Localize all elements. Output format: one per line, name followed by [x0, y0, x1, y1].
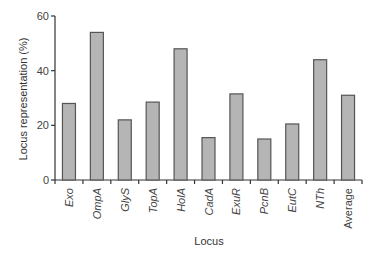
- y-axis: 0204060: [37, 10, 55, 186]
- x-tick-label: EutC: [286, 188, 298, 213]
- bar-eutc: [286, 124, 299, 180]
- bar-hola: [174, 49, 187, 180]
- bar-pcnb: [258, 139, 271, 180]
- bar-exo: [62, 103, 75, 180]
- bar-topa: [146, 102, 159, 180]
- y-tick-label: 60: [37, 10, 49, 22]
- x-tick-label: NTh: [314, 188, 326, 209]
- y-axis-title: Locus representation (%): [17, 38, 29, 161]
- bar-cada: [202, 138, 215, 180]
- x-tick-label: Average: [342, 188, 354, 229]
- bar-exur: [230, 94, 243, 180]
- bar-average: [342, 95, 355, 180]
- x-tick-label: CadA: [203, 188, 215, 216]
- x-tick-label: ExuR: [230, 188, 242, 215]
- x-tick-label: GlyS: [119, 187, 131, 212]
- bar-ompa: [90, 32, 103, 180]
- y-tick-label: 0: [43, 174, 49, 186]
- bar-chart: 0204060 ExoOmpAGlySTopAHolACadAExuRPcnBE…: [0, 0, 377, 258]
- bars: [62, 32, 354, 180]
- x-tick-label: HolA: [175, 188, 187, 212]
- bar-glys: [118, 120, 131, 180]
- x-tick-label: OmpA: [91, 188, 103, 219]
- x-axis-title: Locus: [194, 235, 224, 247]
- x-tick-label: PcnB: [258, 188, 270, 214]
- bar-nth: [314, 60, 327, 180]
- y-tick-label: 40: [37, 65, 49, 77]
- x-axis: ExoOmpAGlySTopAHolACadAExuRPcnBEutCNThAv…: [55, 180, 362, 229]
- y-tick-label: 20: [37, 119, 49, 131]
- x-tick-label: TopA: [147, 188, 159, 213]
- x-tick-label: Exo: [63, 188, 75, 207]
